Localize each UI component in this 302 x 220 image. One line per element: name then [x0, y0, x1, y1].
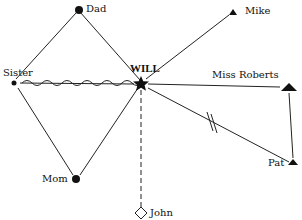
mike-triangle-icon — [229, 9, 237, 15]
label-mom: Mom — [42, 174, 68, 184]
label-john: John — [150, 208, 173, 218]
edge-sister-mom — [18, 88, 73, 175]
sister-circle-icon — [12, 81, 17, 86]
missroberts-triangle-icon — [281, 83, 297, 91]
pat-triangle-icon — [288, 159, 298, 165]
label-pat: Pat — [268, 158, 284, 168]
label-sister: Sister — [3, 68, 33, 78]
edge-will-pat — [148, 88, 289, 162]
label-mike: Mike — [245, 6, 270, 16]
dad-circle-icon — [75, 6, 83, 14]
edge-will-missroberts — [148, 84, 280, 87]
edge-missroberts-pat — [289, 93, 293, 158]
edge-sister-will — [20, 83, 134, 84]
john-diamond-icon — [135, 207, 147, 219]
label-miss-roberts: Miss Roberts — [212, 70, 279, 80]
edge-mom-will — [80, 88, 138, 175]
label-dad: Dad — [86, 4, 106, 14]
label-will: WILL — [130, 63, 160, 74]
mom-circle-icon — [72, 175, 80, 183]
relationship-diagram — [0, 0, 302, 220]
